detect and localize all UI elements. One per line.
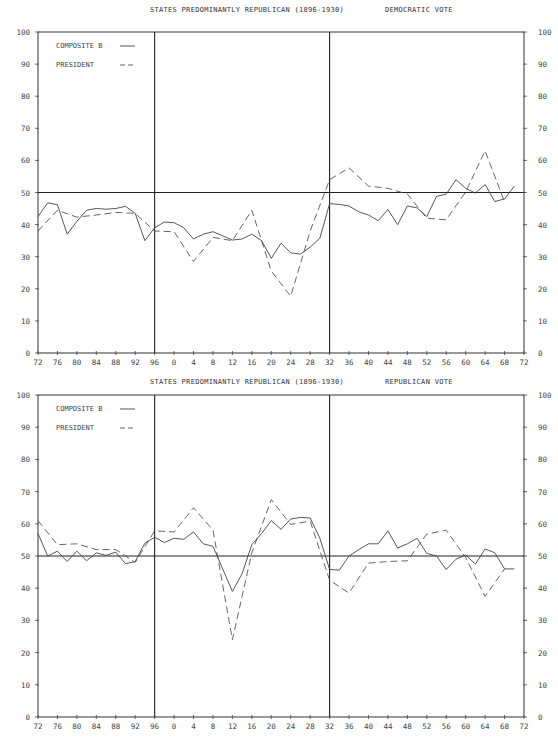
y-tick-label-left: 100 (16, 28, 30, 37)
x-tick-label: 8 (211, 722, 216, 731)
x-tick-label: 36 (345, 358, 355, 367)
x-tick-label: 16 (247, 722, 257, 731)
y-tick-label-left: 90 (21, 60, 31, 69)
y-tick-label-right: 20 (538, 285, 548, 294)
legend-president-label: PRESIDENT (56, 61, 95, 69)
x-tick-label: 56 (442, 722, 452, 731)
x-tick-label: 24 (286, 722, 296, 731)
y-tick-label-right: 0 (538, 349, 543, 358)
y-tick-label-left: 40 (21, 221, 31, 230)
y-tick-label-right: 90 (538, 423, 548, 432)
y-tick-label-left: 10 (21, 681, 31, 690)
x-tick-label: 76 (53, 358, 63, 367)
x-tick-label: 80 (72, 358, 82, 367)
y-tick-label-right: 70 (538, 488, 548, 497)
x-tick-label: 4 (191, 358, 196, 367)
x-tick-label: 48 (403, 722, 413, 731)
x-tick-label: 68 (500, 358, 510, 367)
y-tick-label-right: 40 (538, 221, 548, 230)
x-tick-label: 60 (461, 358, 471, 367)
y-tick-label-right: 0 (538, 713, 543, 722)
x-tick-label: 84 (92, 358, 102, 367)
x-tick-label: 44 (383, 722, 393, 731)
y-tick-label-right: 40 (538, 584, 548, 593)
democratic-vote-chart: 0010102020303040405050606070708080909010… (0, 0, 558, 372)
legend-president-label: PRESIDENT (56, 424, 95, 432)
y-tick-label-left: 80 (21, 455, 31, 464)
y-tick-label-left: 0 (25, 349, 30, 358)
y-tick-label-right: 70 (538, 124, 548, 133)
x-tick-label: 68 (500, 722, 510, 731)
y-tick-label-right: 100 (538, 28, 552, 37)
y-tick-label-left: 100 (16, 391, 30, 400)
y-tick-label-left: 80 (21, 92, 31, 101)
y-tick-label-left: 30 (21, 253, 31, 262)
x-tick-label: 16 (247, 358, 257, 367)
y-tick-label-left: 50 (21, 552, 31, 561)
y-tick-label-left: 70 (21, 124, 31, 133)
x-tick-label: 12 (228, 358, 237, 367)
x-tick-label: 80 (72, 722, 82, 731)
x-tick-label: 92 (131, 722, 140, 731)
president-series (38, 151, 505, 296)
y-tick-label-left: 10 (21, 317, 31, 326)
y-tick-label-left: 40 (21, 584, 31, 593)
x-tick-label: 8 (211, 358, 216, 367)
x-tick-label: 0 (172, 358, 177, 367)
y-tick-label-left: 60 (21, 520, 31, 529)
composite-b-series (38, 180, 514, 259)
republican-vote-panel: STATES PREDOMINANTLY REPUBLICAN (1896-19… (0, 372, 558, 743)
y-tick-label-left: 0 (25, 713, 30, 722)
x-tick-label: 44 (383, 358, 393, 367)
y-tick-label-right: 50 (538, 552, 548, 561)
y-tick-label-right: 60 (538, 156, 548, 165)
y-tick-label-right: 10 (538, 681, 548, 690)
y-tick-label-left: 90 (21, 423, 31, 432)
y-tick-label-right: 80 (538, 92, 548, 101)
x-tick-label: 12 (228, 722, 237, 731)
x-tick-label: 64 (481, 358, 491, 367)
republican-vote-chart: 0010102020303040405050606070708080909010… (0, 372, 558, 743)
y-tick-label-left: 20 (21, 285, 31, 294)
y-tick-label-left: 50 (21, 189, 31, 198)
y-tick-label-left: 60 (21, 156, 31, 165)
x-tick-label: 36 (345, 722, 355, 731)
democratic-vote-panel: STATES PREDOMINANTLY REPUBLICAN (1896-19… (0, 0, 558, 372)
legend-composite-label: COMPOSITE B (56, 405, 102, 413)
x-tick-label: 20 (267, 722, 277, 731)
legend-composite-label: COMPOSITE B (56, 42, 102, 50)
x-tick-label: 0 (172, 722, 177, 731)
x-tick-label: 72 (519, 358, 528, 367)
x-tick-label: 88 (111, 358, 121, 367)
y-tick-label-left: 70 (21, 488, 31, 497)
x-tick-label: 76 (53, 722, 63, 731)
x-tick-label: 4 (191, 722, 196, 731)
x-tick-label: 72 (33, 358, 42, 367)
y-tick-label-right: 30 (538, 616, 548, 625)
x-tick-label: 20 (267, 358, 277, 367)
x-tick-label: 84 (92, 722, 102, 731)
y-tick-label-left: 20 (21, 649, 31, 658)
y-tick-label-left: 30 (21, 616, 31, 625)
x-tick-label: 72 (519, 722, 528, 731)
y-tick-label-right: 20 (538, 649, 548, 658)
x-tick-label: 96 (150, 722, 160, 731)
x-tick-label: 52 (422, 722, 431, 731)
y-tick-label-right: 10 (538, 317, 548, 326)
y-tick-label-right: 50 (538, 189, 548, 198)
y-tick-label-right: 100 (538, 391, 552, 400)
x-tick-label: 64 (481, 722, 491, 731)
x-tick-label: 60 (461, 722, 471, 731)
x-tick-label: 32 (325, 722, 334, 731)
x-tick-label: 56 (442, 358, 452, 367)
x-tick-label: 88 (111, 722, 121, 731)
x-tick-label: 24 (286, 358, 296, 367)
composite-b-series (38, 517, 514, 591)
x-tick-label: 28 (306, 358, 316, 367)
x-tick-label: 52 (422, 358, 431, 367)
y-tick-label-right: 90 (538, 60, 548, 69)
x-tick-label: 48 (403, 358, 413, 367)
y-tick-label-right: 30 (538, 253, 548, 262)
x-tick-label: 72 (33, 722, 42, 731)
x-tick-label: 40 (364, 722, 374, 731)
